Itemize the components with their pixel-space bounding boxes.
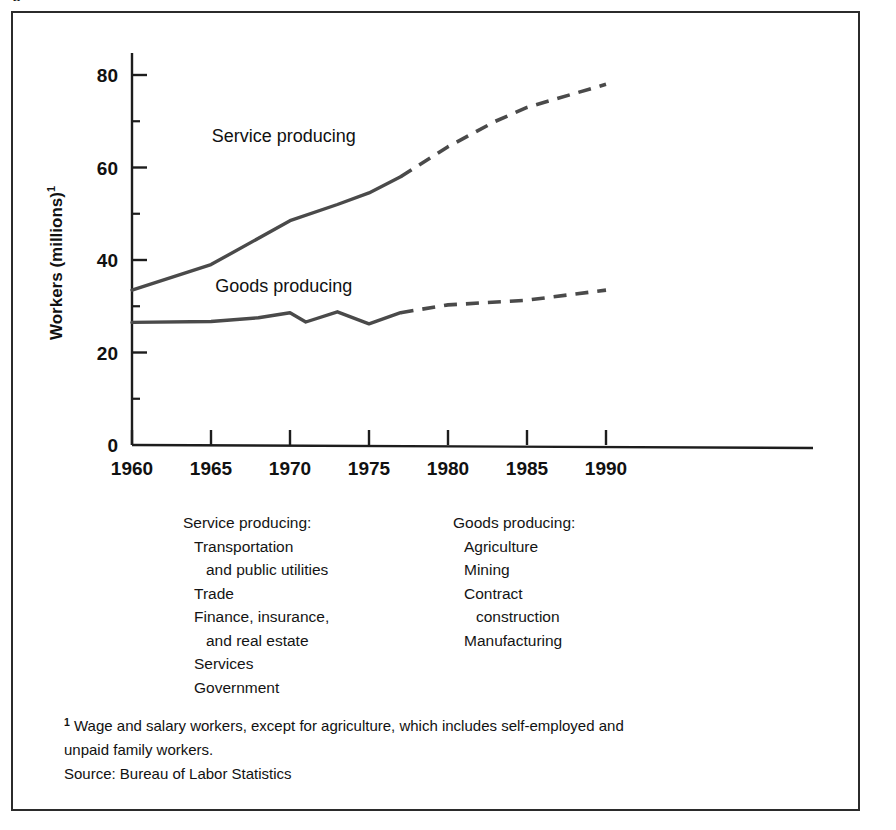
caption-left-text: Figure — [0, 0, 896, 1]
x-tick-label: 1990 — [585, 458, 627, 479]
y-tick-label: 0 — [107, 435, 118, 456]
goods-category-item: Agriculture — [453, 535, 575, 559]
x-tick-label: 1980 — [427, 458, 469, 479]
footnote-line-2: unpaid family workers. — [64, 738, 824, 762]
service-category-item: Government — [183, 676, 329, 700]
y-tick-label: 80 — [97, 65, 118, 86]
service-category-item: and real estate — [183, 629, 329, 653]
source-line: Source: Bureau of Labor Statistics — [64, 762, 824, 786]
y-axis-title: Workers (millions)1 — [45, 186, 66, 340]
clipped-caption-strip: Figure Chart — [0, 0, 896, 1]
service-category-item: Transportation — [183, 535, 329, 559]
y-tick-label: 60 — [97, 158, 118, 179]
series-line-solid — [132, 312, 401, 324]
x-axis-line — [132, 445, 813, 448]
category-heading: Service producing: — [183, 511, 329, 535]
series-annotations: Service producingGoods producing — [212, 126, 356, 296]
category-list-service: Service producing: Transportationand pub… — [183, 511, 329, 699]
x-tick-label: 1970 — [269, 458, 311, 479]
service-category-item: Trade — [183, 582, 329, 606]
service-category-item: Services — [183, 652, 329, 676]
footnote-text-1: Wage and salary workers, except for agri… — [74, 717, 624, 734]
series-layer — [132, 84, 606, 323]
goods-category-item: construction — [453, 605, 575, 629]
y-tick-label: 20 — [97, 343, 118, 364]
line-chart: 0204060801960196519701975198019851990Wor… — [13, 13, 858, 809]
series-line-solid — [132, 177, 401, 290]
footnote-marker: 1 — [64, 716, 70, 728]
category-items: Transportationand public utilitiesTradeF… — [183, 535, 329, 700]
category-heading: Goods producing: — [453, 511, 575, 535]
service-category-item: and public utilities — [183, 558, 329, 582]
series-label: Goods producing — [215, 276, 352, 296]
y-tick-label: 40 — [97, 250, 118, 271]
goods-category-item: Contract — [453, 582, 575, 606]
caption-right-text: Chart — [843, 0, 880, 1]
service-category-item: Finance, insurance, — [183, 605, 329, 629]
footnote-line-1: 1 Wage and salary workers, except for ag… — [64, 710, 824, 738]
x-tick-label: 1965 — [190, 458, 233, 479]
series-label: Service producing — [212, 126, 356, 146]
x-tick-label: 1975 — [348, 458, 391, 479]
figure-frame: 0204060801960196519701975198019851990Wor… — [11, 11, 860, 811]
series-line-dashed — [401, 290, 606, 313]
category-items: AgricultureMiningContractconstructionMan… — [453, 535, 575, 653]
series-line-dashed — [401, 84, 606, 177]
x-tick-label: 1960 — [111, 458, 153, 479]
x-tick-label: 1985 — [506, 458, 549, 479]
goods-category-item: Mining — [453, 558, 575, 582]
axes-layer: 0204060801960196519701975198019851990Wor… — [45, 53, 813, 479]
category-list-goods: Goods producing: AgricultureMiningContra… — [453, 511, 575, 652]
footnote-block: 1 Wage and salary workers, except for ag… — [64, 710, 824, 786]
goods-category-item: Manufacturing — [453, 629, 575, 653]
